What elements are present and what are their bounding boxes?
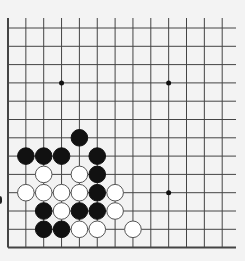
black-stone <box>18 148 35 165</box>
white-stone <box>71 184 88 201</box>
black-stone <box>71 203 88 220</box>
black-stone <box>53 148 70 165</box>
white-stone <box>53 203 70 220</box>
white-stone <box>53 184 70 201</box>
white-stone <box>107 184 124 201</box>
black-stone <box>89 184 106 201</box>
go-board <box>0 0 245 261</box>
black-stone <box>89 148 106 165</box>
white-stone <box>35 184 52 201</box>
black-stone <box>89 166 106 183</box>
white-stone <box>107 203 124 220</box>
star-point-icon <box>166 190 171 195</box>
black-stone <box>35 148 52 165</box>
star-point-icon <box>59 80 64 85</box>
black-stone <box>89 203 106 220</box>
black-stone <box>53 221 70 238</box>
black-stone <box>35 221 52 238</box>
star-point-icon <box>166 80 171 85</box>
black-stone <box>71 130 88 147</box>
white-stone <box>71 221 88 238</box>
black-stone <box>35 203 52 220</box>
white-stone <box>35 166 52 183</box>
white-stone <box>125 221 142 238</box>
white-stone <box>71 166 88 183</box>
white-stone <box>18 184 35 201</box>
white-stone <box>89 221 106 238</box>
